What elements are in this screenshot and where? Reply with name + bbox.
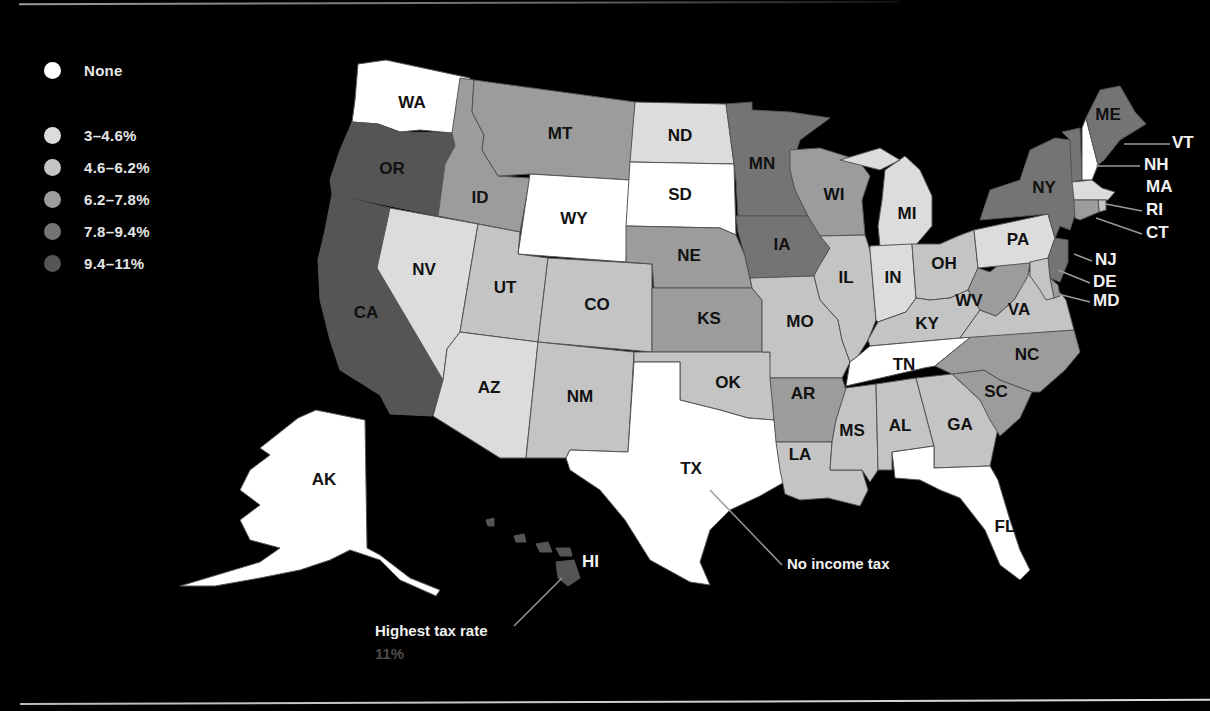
label-MN: MN (749, 154, 775, 173)
label-AZ: AZ (478, 378, 501, 397)
label-PA: PA (1007, 230, 1029, 249)
label-MS: MS (839, 421, 865, 440)
leader-DE (1058, 270, 1090, 283)
label-AK: AK (312, 470, 337, 489)
label-MO: MO (786, 312, 813, 331)
label-RI: RI (1146, 200, 1163, 219)
state-AK[interactable] (180, 410, 440, 596)
label-AL: AL (889, 416, 912, 435)
leader-CT (1096, 218, 1142, 234)
label-SC: SC (984, 382, 1008, 401)
label-NH: NH (1144, 155, 1169, 174)
label-FL: FL (995, 517, 1016, 536)
label-MT: MT (548, 124, 573, 143)
highest-tax-value: 11% (375, 645, 404, 662)
leader-highest-tax (514, 578, 562, 626)
label-AR: AR (791, 384, 816, 403)
label-ME: ME (1095, 105, 1121, 124)
label-OR: OR (379, 159, 405, 178)
label-NY: NY (1032, 178, 1056, 197)
label-NC: NC (1015, 345, 1040, 364)
us-map: WA OR CA ID MT WY NV UT CO AZ NM ND SD N… (0, 0, 1210, 711)
label-NV: NV (412, 260, 436, 279)
label-TX: TX (680, 459, 702, 478)
label-WA: WA (398, 93, 425, 112)
label-KS: KS (697, 309, 721, 328)
state-MA[interactable] (1072, 180, 1115, 200)
label-SD: SD (668, 185, 692, 204)
label-IA: IA (774, 235, 791, 254)
label-WY: WY (560, 209, 588, 228)
label-NM: NM (567, 387, 593, 406)
state-HI[interactable] (486, 518, 580, 586)
state-ME[interactable] (1086, 86, 1146, 165)
label-ND: ND (668, 126, 693, 145)
label-ID: ID (472, 188, 489, 207)
label-CO: CO (584, 295, 610, 314)
no-income-tax-note: No income tax (787, 555, 890, 572)
label-LA: LA (789, 445, 812, 464)
leader-RI (1106, 204, 1142, 211)
label-IL: IL (838, 268, 853, 287)
label-MI: MI (898, 204, 917, 223)
label-CT: CT (1146, 223, 1169, 242)
leader-NJ (1074, 254, 1092, 261)
label-WV: WV (955, 291, 983, 310)
label-MA: MA (1146, 177, 1172, 196)
label-OK: OK (715, 373, 741, 392)
label-NJ: NJ (1095, 250, 1117, 269)
state-CT[interactable] (1074, 200, 1099, 220)
label-KY: KY (915, 314, 939, 333)
label-UT: UT (494, 278, 517, 297)
label-DE: DE (1093, 272, 1117, 291)
label-GA: GA (947, 415, 973, 434)
label-HI: HI (582, 552, 599, 571)
label-NE: NE (677, 246, 701, 265)
label-TN: TN (893, 355, 916, 374)
label-MD: MD (1093, 291, 1119, 310)
label-CA: CA (354, 303, 379, 322)
label-IN: IN (885, 268, 902, 287)
label-VT: VT (1172, 133, 1194, 152)
highest-tax-label: Highest tax rate (375, 622, 488, 639)
label-WI: WI (824, 185, 845, 204)
label-VA: VA (1008, 300, 1030, 319)
label-OH: OH (931, 254, 957, 273)
